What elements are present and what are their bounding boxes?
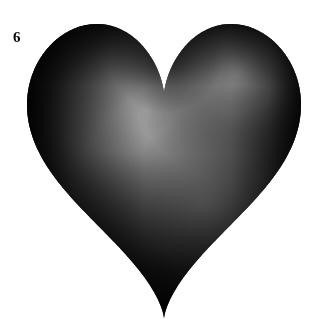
figure-number-label: 6 bbox=[13, 30, 21, 45]
heart-surface-render bbox=[0, 0, 318, 325]
figure-page: 6 bbox=[0, 0, 318, 325]
